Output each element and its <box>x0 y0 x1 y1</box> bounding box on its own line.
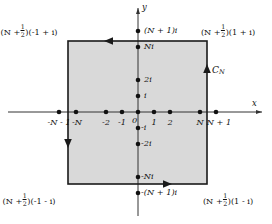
y-axis-label: y <box>142 3 147 11</box>
contour-name-label: CN <box>212 65 225 76</box>
point-dot <box>120 110 125 115</box>
point-dot <box>136 126 141 131</box>
point-dot <box>136 94 141 99</box>
x-axis-arrowhead <box>256 110 262 114</box>
y-tick-label-minus-i: -i <box>141 123 146 131</box>
point-dot <box>152 110 157 115</box>
point-dot <box>136 45 141 50</box>
x-tick-label-minus-1: -1 <box>118 118 126 126</box>
corner-label-bottom-left: (N +12)(-1 - i) <box>3 193 56 207</box>
point-dot <box>136 110 141 115</box>
complex-plane-contour-figure: x y (N +12)(-1 + i) (N +12)(1 + i) (N +1… <box>0 0 272 224</box>
y-tick-label-Ni: Ni <box>144 42 154 50</box>
point-dot <box>104 110 109 115</box>
x-axis-label: x <box>252 99 257 107</box>
point-dot <box>214 110 219 115</box>
x-tick-label-minus-N: -N <box>72 118 82 126</box>
point-dot <box>136 29 141 34</box>
x-tick-label-N-plus-1: N + 1 <box>207 118 231 126</box>
point-dot <box>168 110 173 115</box>
point-dot <box>136 78 141 83</box>
point-dot <box>74 110 79 115</box>
x-tick-label-N: N <box>196 118 203 126</box>
point-dot <box>198 110 203 115</box>
x-tick-label-minus-2: -2 <box>102 118 110 126</box>
point-dot <box>136 175 141 180</box>
x-tick-label-2: 2 <box>167 118 172 126</box>
y-tick-label-minus-Ni: -Ni <box>141 172 154 180</box>
origin-label: 0 <box>132 116 137 124</box>
point-dot <box>136 191 141 196</box>
y-tick-label-minus-2i: -2i <box>141 139 152 147</box>
point-dot <box>136 142 141 147</box>
corner-label-bottom-right: (N +12)(1 - i) <box>203 193 253 207</box>
y-tick-label-minus-N-plus-1-i: -(N + 1)i <box>141 188 177 196</box>
x-tick-label-1: 1 <box>151 118 156 126</box>
x-tick-label-minus-N-minus-1: -N - 1 <box>47 118 70 126</box>
y-axis-arrowhead <box>136 8 140 14</box>
corner-label-top-left: (N +12)(-1 + i) <box>0 24 57 38</box>
point-dot <box>57 110 62 115</box>
y-tick-label-i: i <box>144 91 147 99</box>
corner-label-top-right: (N +12)(1 + i) <box>201 24 255 38</box>
y-tick-label-2i: 2i <box>144 75 152 83</box>
y-tick-label-N-plus-1-i: (N + 1)i <box>144 26 177 34</box>
